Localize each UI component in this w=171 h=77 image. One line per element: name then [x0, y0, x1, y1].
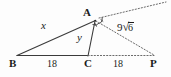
segment-BA — [17, 21, 96, 56]
radicand-value: 6 — [128, 22, 134, 33]
vertex-label-A: A — [83, 7, 91, 18]
side-label-AC: y — [77, 32, 82, 43]
vertex-dot-A — [94, 20, 96, 22]
side-label-CP: 18 — [113, 59, 123, 69]
vertex-label-P: P — [150, 58, 157, 69]
geometry-figure: B A C P x y 18 18 9√6 — [0, 0, 171, 77]
side-label-BC: 18 — [47, 59, 57, 69]
vertex-label-B: B — [9, 58, 16, 69]
square-root-icon: √6 — [123, 21, 135, 33]
side-label-AP: 9√6 — [117, 21, 134, 33]
ray-A-external — [99, 2, 166, 18]
vertex-label-C: C — [84, 58, 92, 69]
segment-AC — [88, 21, 95, 56]
side-label-BA: x — [41, 20, 46, 31]
